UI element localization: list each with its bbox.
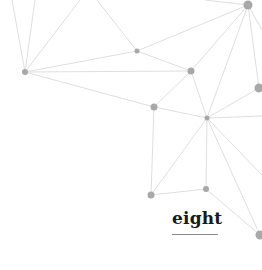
caption-title: eight — [172, 208, 218, 228]
network-graphic — [0, 0, 262, 270]
caption-underline — [172, 234, 218, 235]
